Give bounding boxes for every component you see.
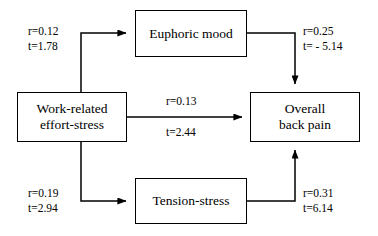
node-overall-back-pain[interactable]: Overall back pain [250,92,360,142]
edge-label-work-to-overall-t: t=2.44 [166,125,196,140]
edge-euphoric-to-overall [247,33,295,84]
node-tension-stress[interactable]: Tension-stress [135,178,247,224]
edge-label-euphoric-to-overall: r=0.25 t= - 5.14 [303,24,342,53]
edge-label-work-to-euphoric: r=0.12 t=1.78 [28,24,58,53]
edge-work-to-euphoric [81,33,126,92]
node-label: Euphoric mood [146,26,236,42]
node-label: Overall back pain [276,101,334,133]
edge-work-to-tension [81,142,126,201]
edge-label-tension-to-overall: r=0.31 t=6.14 [303,186,333,215]
edge-tension-to-overall [247,150,295,201]
node-label: Tension-stress [149,193,232,209]
path-diagram-canvas: Work-related effort-stress Euphoric mood… [0,0,378,236]
node-work-related-effort-stress[interactable]: Work-related effort-stress [17,92,127,142]
edge-label-work-to-overall-r: r=0.13 [166,94,196,109]
edge-label-work-to-tension: r=0.19 t=2.94 [28,186,58,215]
node-euphoric-mood[interactable]: Euphoric mood [135,10,247,57]
node-label: Work-related effort-stress [34,101,111,133]
